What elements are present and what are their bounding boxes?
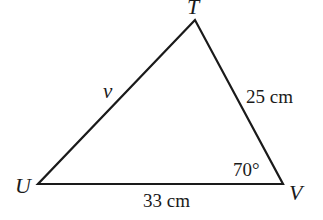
angle-label-v: 70° [233, 159, 260, 180]
side-label-tv: 25 cm [246, 86, 293, 107]
vertex-label-t: T [187, 0, 201, 19]
triangle-diagram: T U V v 25 cm 33 cm 70° [0, 0, 323, 220]
vertex-label-u: U [15, 173, 33, 198]
side-label-ut: v [103, 79, 113, 103]
side-label-uv: 33 cm [143, 190, 190, 211]
vertex-label-v: V [289, 180, 305, 205]
